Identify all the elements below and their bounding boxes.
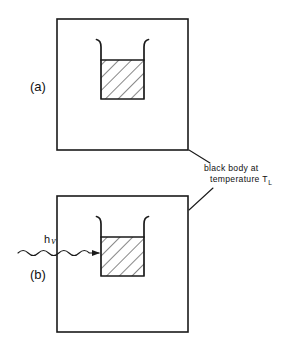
photon-energy-label: hν <box>44 233 56 246</box>
annotation-temperature-text: temperature T <box>210 174 268 184</box>
vessel-hatch-fill-a <box>101 60 144 99</box>
annotation-temperature-subscript: L <box>268 179 272 186</box>
photon-energy-h: h <box>44 233 50 245</box>
vessel-hatch-fill-b <box>101 237 144 276</box>
black-body-diagram: (a) hν (b) black body at temperatur <box>0 0 297 350</box>
annotation-line-1: black body at <box>204 163 259 173</box>
figure-container: (a) hν (b) black body at temperatur <box>0 0 297 350</box>
photon-energy-nu: ν <box>51 235 56 246</box>
panel-label-a: (a) <box>30 79 46 94</box>
annotation-line-2: temperature TL <box>210 174 272 186</box>
panel-label-b: (b) <box>30 267 46 282</box>
